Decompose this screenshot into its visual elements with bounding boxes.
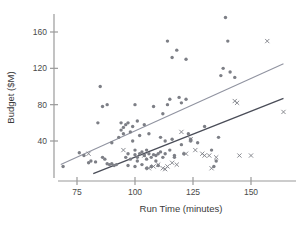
data-point-dot <box>180 101 183 104</box>
data-point-dot <box>175 48 178 51</box>
data-point-dot <box>131 139 134 142</box>
y-tick-label: 160 <box>33 27 47 37</box>
data-point-dot <box>226 39 229 42</box>
data-point-x <box>281 110 285 114</box>
x-tick-label: 75 <box>72 187 82 197</box>
y-tick-label: 120 <box>33 63 47 73</box>
data-point-dot <box>133 148 136 151</box>
data-point-x <box>209 166 213 170</box>
scatter-chart: 408012016075100125150Run Time (minutes)B… <box>0 0 305 227</box>
data-point-dot <box>224 16 227 19</box>
data-point-dot <box>221 67 224 70</box>
data-point-x <box>235 101 239 105</box>
data-point-dot <box>143 123 146 126</box>
data-point-dot <box>161 112 164 115</box>
data-point-dot <box>119 121 122 124</box>
data-point-x <box>207 153 211 157</box>
data-point-dot <box>124 156 127 159</box>
data-point-dot <box>228 70 231 73</box>
trend-line-lower-fit <box>93 98 283 173</box>
data-point-dot <box>119 128 122 131</box>
data-point-dot <box>103 157 106 160</box>
data-point-dot <box>147 132 150 135</box>
data-point-x <box>249 153 253 157</box>
data-point-dot <box>136 156 139 159</box>
data-point-dot <box>233 76 236 79</box>
data-point-x <box>179 130 183 134</box>
data-point-dot <box>78 151 81 154</box>
axis-labels-layer: 408012016075100125150Run Time (minutes)B… <box>5 27 258 214</box>
data-point-dot <box>219 74 222 77</box>
data-point-dot <box>217 136 220 139</box>
data-point-dot <box>133 165 136 168</box>
x-axis-title: Run Time (minutes) <box>140 203 223 214</box>
trend-lines-layer <box>61 64 284 174</box>
data-point-dot <box>110 141 113 144</box>
data-point-x <box>193 148 197 152</box>
data-point-dot <box>82 154 85 157</box>
data-point-x <box>203 153 207 157</box>
data-point-dot <box>177 96 180 99</box>
chart-canvas: 408012016075100125150Run Time (minutes)B… <box>0 0 305 227</box>
data-point-x <box>121 148 125 152</box>
data-point-dot <box>94 160 97 163</box>
data-point-dot <box>105 103 108 106</box>
data-point-dot <box>154 159 157 162</box>
data-point-dot <box>140 163 143 166</box>
data-point-dot <box>145 148 148 151</box>
x-tick-label: 150 <box>244 187 258 197</box>
data-point-dot <box>122 126 125 129</box>
data-point-x <box>170 161 174 165</box>
data-point-dot <box>180 143 183 146</box>
y-tick-label: 80 <box>38 100 48 110</box>
data-point-dot <box>131 125 134 128</box>
data-point-dot <box>196 141 199 144</box>
data-point-dot <box>150 156 153 159</box>
data-point-dot <box>115 163 118 166</box>
x-tick-label: 100 <box>128 187 142 197</box>
data-point-dot <box>126 121 129 124</box>
data-point-dot <box>187 132 190 135</box>
data-point-dot <box>170 56 173 59</box>
data-point-dot <box>133 103 136 106</box>
trend-line-upper-fit <box>61 64 284 165</box>
data-point-dot <box>122 132 125 135</box>
data-point-dot <box>89 159 92 162</box>
data-point-dot <box>166 39 169 42</box>
data-point-dot <box>161 156 164 159</box>
data-point-x <box>237 153 241 157</box>
data-point-dot <box>136 119 139 122</box>
data-point-dot <box>215 159 218 162</box>
y-tick-label: 40 <box>38 136 48 146</box>
data-point-dot <box>140 150 143 153</box>
data-points-layer <box>61 16 285 171</box>
data-point-dot <box>133 153 136 156</box>
data-point-dot <box>99 85 102 88</box>
data-point-dot <box>163 152 166 155</box>
data-point-dot <box>170 137 173 140</box>
data-point-dot <box>159 150 162 153</box>
y-axis-title: Budget ($M) <box>5 71 16 123</box>
data-point-dot <box>168 148 171 151</box>
data-point-dot <box>101 105 104 108</box>
data-point-x <box>265 39 269 43</box>
x-tick-label: 125 <box>186 187 200 197</box>
data-point-dot <box>173 156 176 159</box>
data-point-dot <box>126 164 129 167</box>
axes-layer <box>50 14 296 185</box>
data-point-dot <box>138 134 141 137</box>
data-point-dot <box>117 136 120 139</box>
data-point-dot <box>145 157 148 160</box>
data-point-dot <box>147 152 150 155</box>
data-point-dot <box>152 105 155 108</box>
data-point-dot <box>126 152 129 155</box>
data-point-x <box>165 164 169 168</box>
data-point-x <box>175 163 179 167</box>
data-point-dot <box>210 148 213 151</box>
data-point-dot <box>159 136 162 139</box>
data-point-dot <box>184 58 187 61</box>
data-point-dot <box>129 157 132 160</box>
data-point-dot <box>136 159 139 162</box>
data-point-dot <box>129 130 132 133</box>
data-point-dot <box>166 103 169 106</box>
